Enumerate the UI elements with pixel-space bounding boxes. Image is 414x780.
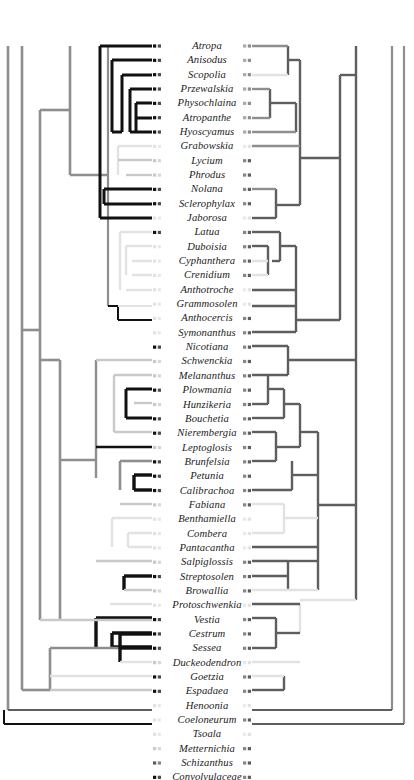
tip-marker-secondary [158, 475, 161, 478]
tip-marker-secondary [158, 718, 161, 721]
tip-marker [248, 690, 251, 693]
tip-marker [153, 331, 156, 334]
tip-marker-secondary [243, 704, 246, 707]
tip-marker-secondary [243, 317, 246, 320]
tip-marker [153, 518, 156, 521]
tip-marker [153, 303, 156, 306]
tip-marker-secondary [158, 188, 161, 191]
tip-marker [248, 561, 251, 564]
tip-marker [248, 546, 251, 549]
tip-marker [153, 417, 156, 420]
tip-marker-secondary [243, 747, 246, 750]
tip-marker [153, 432, 156, 435]
tip-marker [248, 589, 251, 592]
tip-marker [248, 604, 251, 607]
tip-marker [153, 44, 156, 47]
tip-marker [153, 102, 156, 105]
tip-marker [153, 589, 156, 592]
tip-marker-secondary [158, 260, 161, 263]
tip-marker-secondary [158, 202, 161, 205]
tip-marker [248, 231, 251, 234]
tip-marker [153, 173, 156, 176]
tip-marker [153, 188, 156, 191]
tip-marker-secondary [243, 561, 246, 564]
right-cladogram [243, 44, 404, 779]
tip-marker-secondary [158, 130, 161, 133]
tip-marker [153, 346, 156, 349]
tip-marker [248, 747, 251, 750]
tip-marker-secondary [158, 417, 161, 420]
tip-marker [248, 532, 251, 535]
tip-marker-secondary [243, 575, 246, 578]
tip-marker-secondary [158, 87, 161, 90]
tip-marker [248, 73, 251, 76]
tip-marker-secondary [243, 532, 246, 535]
tip-marker [248, 145, 251, 148]
tip-marker-secondary [158, 618, 161, 621]
tip-marker-secondary [243, 374, 246, 377]
tip-marker [153, 747, 156, 750]
tip-marker-secondary [243, 460, 246, 463]
tip-marker [248, 331, 251, 334]
tip-marker [153, 288, 156, 291]
tip-marker-secondary [243, 489, 246, 492]
tip-marker [153, 231, 156, 234]
tip-marker-secondary [158, 403, 161, 406]
tip-marker-secondary [243, 475, 246, 478]
tip-marker [248, 417, 251, 420]
tip-marker [153, 561, 156, 564]
tip-marker-secondary [158, 59, 161, 62]
tip-marker-secondary [158, 675, 161, 678]
tip-marker-secondary [243, 188, 246, 191]
tip-marker [248, 704, 251, 707]
tip-marker [153, 87, 156, 90]
tip-marker-secondary [243, 446, 246, 449]
tip-marker-secondary [158, 546, 161, 549]
tip-marker [248, 116, 251, 119]
tip-marker [248, 360, 251, 363]
tip-marker [248, 102, 251, 105]
tip-marker [153, 159, 156, 162]
tip-marker [153, 374, 156, 377]
tip-marker-secondary [158, 532, 161, 535]
tip-marker [248, 159, 251, 162]
tip-marker-secondary [158, 245, 161, 248]
tip-marker [248, 432, 251, 435]
tip-marker-secondary [158, 231, 161, 234]
tip-marker [248, 661, 251, 664]
tip-marker-secondary [243, 274, 246, 277]
tip-marker [153, 317, 156, 320]
tip-marker-secondary [243, 130, 246, 133]
tip-marker-secondary [243, 546, 246, 549]
tree-canvas [0, 0, 414, 780]
tip-marker-secondary [243, 303, 246, 306]
tip-marker [153, 274, 156, 277]
phylogenetic-tree-figure: AtropaAnisodusScopoliaPrzewalskiaPhysoch… [0, 0, 414, 780]
tip-marker-secondary [158, 632, 161, 635]
tip-marker [153, 202, 156, 205]
tip-marker [248, 647, 251, 650]
tip-marker [153, 546, 156, 549]
tip-marker [248, 87, 251, 90]
tip-marker-secondary [243, 661, 246, 664]
tip-marker-secondary [158, 145, 161, 148]
tip-marker-secondary [243, 647, 246, 650]
tip-marker [153, 733, 156, 736]
tip-marker [153, 503, 156, 506]
tip-marker [248, 288, 251, 291]
tip-marker [153, 675, 156, 678]
tip-marker [153, 73, 156, 76]
tip-marker [153, 661, 156, 664]
tip-marker-secondary [158, 360, 161, 363]
tip-marker-secondary [158, 288, 161, 291]
tip-marker-secondary [158, 589, 161, 592]
tip-marker [153, 690, 156, 693]
tip-marker-secondary [158, 561, 161, 564]
tip-marker-secondary [158, 432, 161, 435]
tip-marker-secondary [158, 116, 161, 119]
tip-marker-secondary [243, 202, 246, 205]
tip-marker [153, 704, 156, 707]
tip-marker [248, 389, 251, 392]
tip-marker [248, 675, 251, 678]
tip-marker-secondary [158, 575, 161, 578]
